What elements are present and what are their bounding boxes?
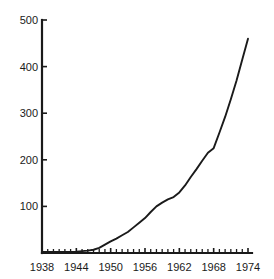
y-axis-tick-label: 400 xyxy=(20,61,38,73)
x-axis-tick-label: 1962 xyxy=(167,261,191,273)
x-axis-tick-label: 1944 xyxy=(64,261,88,273)
line-chart: 100200300400500 193819441950195619621968… xyxy=(0,0,274,279)
x-axis-tick-label: 1974 xyxy=(236,261,260,273)
chart-plot-area xyxy=(0,0,274,279)
y-axis-tick-label: 200 xyxy=(20,154,38,166)
y-axis-tick-label: 500 xyxy=(20,14,38,26)
x-axis-tick-label: 1956 xyxy=(133,261,157,273)
y-axis-tick-label: 300 xyxy=(20,107,38,119)
axes-group xyxy=(42,20,252,253)
x-axis-tick-label: 1938 xyxy=(30,261,54,273)
y-axis-tick-label: 100 xyxy=(20,200,38,212)
x-axis-tick-label: 1950 xyxy=(98,261,122,273)
data-line-series-1 xyxy=(42,39,248,252)
x-axis-tick-label: 1968 xyxy=(201,261,225,273)
